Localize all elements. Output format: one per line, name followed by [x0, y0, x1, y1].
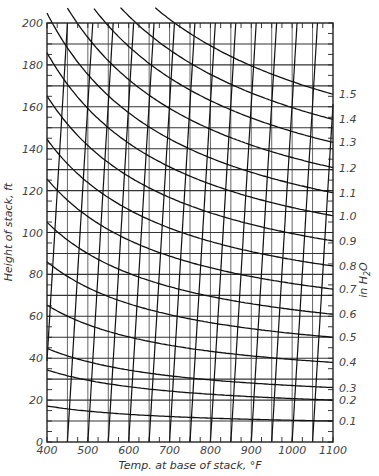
stack-draft-chart: 40050060070080090010001100 0204060801001…: [0, 0, 379, 476]
draft-label: 1.1: [339, 187, 357, 200]
y-tick-label: 60: [29, 310, 43, 323]
y-tick-labels: 020406080100120140160180200: [22, 17, 43, 449]
draft-curve-1.4: [121, 8, 334, 120]
y-tick-label: 100: [22, 227, 43, 240]
y-tick-label: 140: [22, 143, 43, 156]
y-tick-label: 180: [22, 59, 43, 72]
draft-label: 1.4: [339, 113, 357, 126]
draft-curve-1.5: [155, 8, 333, 94]
y-tick-label: 40: [29, 352, 43, 365]
y-axis-title: Height of stack, ft: [2, 182, 15, 281]
draft-label: 0.4: [339, 356, 357, 369]
draft-label: 0.5: [339, 331, 357, 344]
draft-label: 0.1: [339, 415, 357, 428]
y2-title-in: in H: [357, 276, 370, 298]
x-tick-labels: 40050060070080090010001100: [37, 444, 348, 457]
x-tick-label: 800: [200, 444, 221, 457]
draft-label: 1.0: [339, 210, 357, 223]
draft-label: 0.6: [339, 308, 357, 321]
draft-label: 0.9: [339, 235, 357, 248]
draft-label: 0.3: [339, 382, 357, 395]
y-tick-label: 80: [29, 268, 43, 281]
draft-label: 0.7: [339, 283, 357, 296]
x-tick-label: 900: [241, 444, 262, 457]
y-tick-label: 0: [36, 436, 43, 449]
right-draft-labels: 0.10.20.30.40.50.60.70.80.91.01.11.21.31…: [339, 88, 357, 428]
x-tick-label: 700: [159, 444, 180, 457]
draft-label: 1.3: [339, 136, 357, 149]
y-tick-label: 160: [22, 101, 43, 114]
y-tick-label: 200: [22, 17, 43, 30]
y-tick-label: 120: [22, 185, 43, 198]
draft-label: 0.8: [339, 260, 357, 273]
y2-axis-title: in H2O: [357, 262, 372, 298]
x-tick-label: 1000: [278, 444, 306, 457]
draft-label: 1.5: [339, 88, 357, 101]
temperature-line: [313, 104, 333, 442]
y2-title-o: O: [357, 262, 370, 271]
draft-label: 0.2: [339, 394, 357, 407]
y-tick-label: 20: [29, 394, 43, 407]
temperature-line: [47, 23, 67, 361]
x-tick-label: 600: [118, 444, 139, 457]
x-tick-label: 1100: [319, 444, 347, 457]
x-axis-title: Temp. at base of stack, °F: [118, 459, 262, 472]
draft-label: 1.2: [339, 162, 357, 175]
x-tick-label: 500: [77, 444, 98, 457]
